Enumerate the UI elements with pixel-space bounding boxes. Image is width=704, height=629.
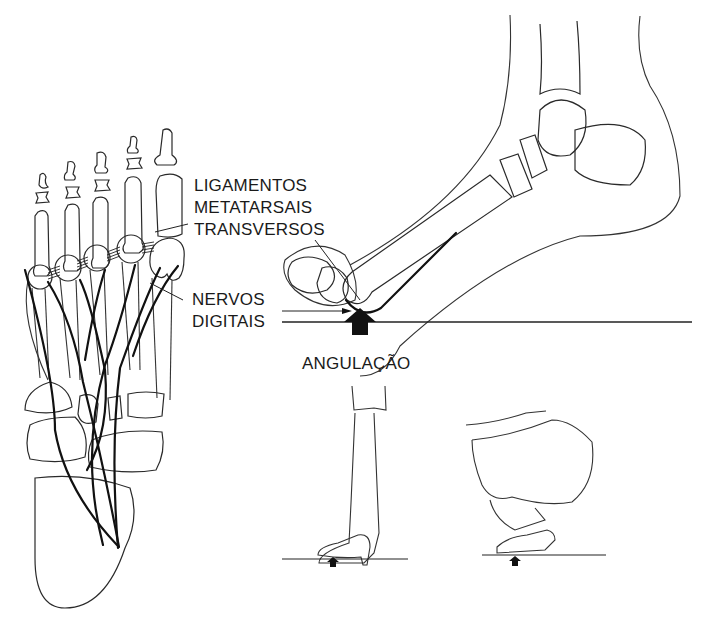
label-digitais: DIGITAIS bbox=[192, 311, 265, 332]
label-metatarsais: METATARSAIS bbox=[194, 197, 312, 218]
label-angulacao: ANGULAÇÃO bbox=[302, 353, 411, 374]
anatomy-figure: LIGAMENTOS METATARSAIS TRANSVERSOS NERVO… bbox=[0, 0, 704, 629]
label-ligamentos: LIGAMENTOS bbox=[194, 175, 307, 196]
label-transversos: TRANSVERSOS bbox=[194, 219, 325, 240]
squatting-figure bbox=[0, 0, 704, 629]
label-nervos: NERVOS bbox=[192, 289, 265, 310]
